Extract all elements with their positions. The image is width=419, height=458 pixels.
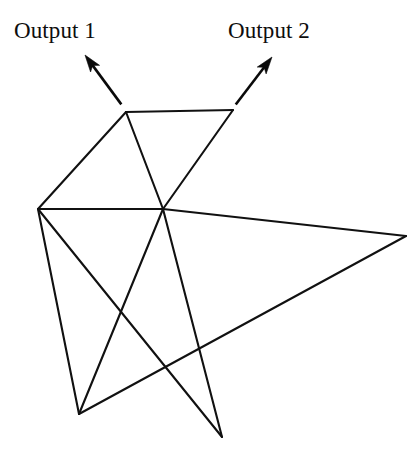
- mesh-edge-tl-tr: [126, 110, 233, 112]
- output-1-arrow: [85, 55, 121, 104]
- mesh-edge-l-br: [38, 209, 222, 437]
- output-2-arrow-shaft: [236, 67, 265, 105]
- mesh-edge-l-bl: [38, 209, 79, 414]
- mesh-edge-c-r: [163, 209, 406, 236]
- output-1-arrow-shaft: [92, 65, 121, 105]
- pointer-arrow-group: [85, 55, 272, 104]
- mesh-edge-tl-l: [38, 112, 126, 209]
- mesh-edge-c-bl: [79, 209, 163, 414]
- output-1-label: Output 1: [14, 19, 96, 42]
- output-2-label: Output 2: [228, 19, 310, 42]
- output-1-arrow-head: [85, 55, 100, 72]
- output-2-arrow: [236, 57, 272, 104]
- mesh-edge-tr-c: [163, 110, 233, 209]
- mesh-diagram-svg: [0, 0, 419, 458]
- mesh-edge-bl-r: [79, 236, 406, 414]
- mesh-edge-c-br: [163, 209, 222, 437]
- mesh-edge-group: [38, 110, 406, 437]
- figure-canvas: Output 1 Output 2: [0, 0, 419, 458]
- mesh-edge-tl-c: [126, 112, 163, 209]
